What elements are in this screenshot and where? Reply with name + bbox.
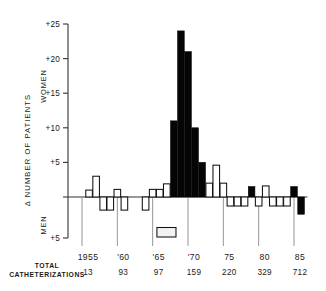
chart-bar — [277, 197, 284, 206]
chart-bar — [255, 197, 262, 206]
total-catheterizations-value: 97 — [154, 268, 164, 277]
x-axis-tick-label: 80 — [259, 252, 269, 262]
chart-bar — [93, 176, 100, 197]
total-catheterizations-value: 329 — [257, 268, 272, 277]
chart-bar — [262, 186, 269, 197]
chart-bar — [185, 52, 192, 197]
annotation-box — [157, 228, 176, 238]
annotation-layer — [157, 228, 176, 238]
chart-bar — [248, 187, 255, 197]
chart-bar — [86, 190, 93, 197]
chart-bar — [114, 189, 121, 197]
x-axis-tick-label: 75 — [224, 252, 234, 262]
chart-bar — [270, 197, 277, 206]
chart-bar — [291, 187, 298, 197]
y-axis-title: Δ NUMBER OF PATIENTS — [23, 94, 32, 206]
chart-bar — [100, 197, 107, 210]
y-axis-tick-label: +5 — [50, 158, 60, 167]
chart-bar — [241, 197, 248, 206]
chart-bar — [149, 189, 156, 197]
y-axis-tick-label: +25 — [46, 20, 61, 29]
total-catheterizations-value: 93 — [118, 268, 128, 277]
chart-bar — [298, 197, 305, 214]
y-axis-tick-label: +20 — [46, 55, 61, 64]
chart-bar — [107, 197, 114, 210]
y-axis-tick-label: +10 — [46, 124, 61, 133]
x-axis-tick-label: 1955 — [78, 252, 99, 262]
chart-bar — [199, 162, 206, 197]
x-axis-tick-label: 85 — [295, 252, 305, 262]
chart-figure: +25+20+15+10+5+5 195513'6093'6597'701597… — [0, 0, 326, 291]
labels-layer: 195513'6093'6597'70159752208032985712 — [78, 252, 308, 277]
y-axis-tick-label: +5 — [50, 234, 60, 243]
chart-bar — [234, 197, 241, 206]
chart-bar — [213, 165, 220, 197]
x-axis-tick-label: '60 — [117, 252, 129, 262]
total-catheterizations-value: 159 — [187, 268, 202, 277]
chart-bar — [156, 189, 163, 197]
chart-bar — [178, 31, 185, 197]
chart-bar — [171, 121, 178, 197]
chart-bar — [192, 128, 199, 197]
women-region-label: WOMEN — [39, 69, 48, 103]
catheterization-sex-difference-chart: +25+20+15+10+5+5 195513'6093'6597'701597… — [0, 0, 326, 291]
chart-bar — [220, 183, 227, 197]
chart-bar — [121, 197, 128, 210]
chart-bar — [206, 183, 213, 197]
chart-bar — [142, 197, 149, 210]
men-region-label: MEN — [39, 215, 48, 234]
x-axis-tick-label: '65 — [152, 252, 164, 262]
chart-bar — [227, 197, 234, 206]
chart-bar — [164, 184, 171, 197]
bars-layer — [86, 31, 305, 214]
chart-bar — [284, 197, 291, 206]
totals-row-label-line1: TOTAL — [35, 262, 60, 269]
x-axis-tick-label: '70 — [188, 252, 200, 262]
totals-row-label-line2: CATHETERIZATIONS — [9, 271, 85, 278]
total-catheterizations-value: 712 — [293, 268, 308, 277]
total-catheterizations-value: 220 — [222, 268, 237, 277]
